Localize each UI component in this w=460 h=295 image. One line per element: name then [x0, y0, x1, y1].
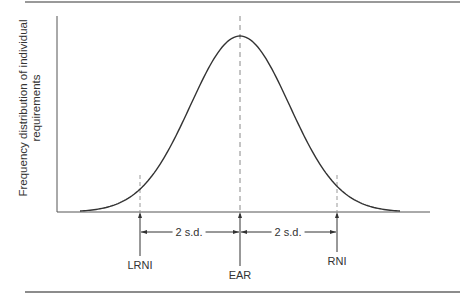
rni-arrow-icon — [335, 212, 339, 218]
lrni-arrow-icon — [138, 212, 142, 218]
arrow-right-icon — [233, 230, 239, 234]
sd-left-label: 2 s.d. — [173, 226, 206, 238]
lrni-label: LRNI — [127, 259, 152, 271]
distribution-diagram — [0, 0, 460, 295]
y-axis-label-line2: requirements — [30, 19, 43, 196]
arrow-left-icon — [241, 230, 247, 234]
sd-right-label: 2 s.d. — [272, 226, 305, 238]
rni-label: RNI — [328, 255, 347, 267]
y-axis-label: Frequency distribution of individual req… — [0, 0, 60, 215]
ear-label: EAR — [229, 269, 252, 281]
arrow-right-icon — [330, 230, 336, 234]
ear-arrow-icon — [238, 212, 242, 218]
arrow-left-icon — [141, 230, 147, 234]
y-axis-label-line1: Frequency distribution of individual — [17, 19, 30, 196]
